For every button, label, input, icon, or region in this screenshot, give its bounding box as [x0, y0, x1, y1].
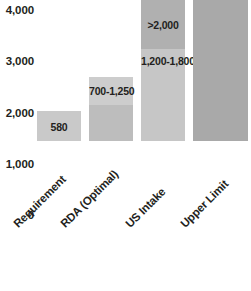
bar-segment [193, 0, 248, 141]
bar-value-label: 580 [37, 122, 81, 133]
bar-value-label: >2,000 [141, 20, 185, 31]
bar-rda-optimal[interactable]: 700-1,250 [89, 0, 133, 141]
bar-upper-limit[interactable]: 3,000-4,000 [193, 0, 248, 141]
bar-us-intake[interactable]: 1,200-1,800>2,000 [141, 0, 185, 141]
x-axis: RequirementRDA (Optimal)US IntakeUpper L… [0, 216, 251, 291]
bar-value-label: 1,200-1,800 [141, 56, 185, 67]
bar-requirement[interactable]: 580 [37, 0, 81, 141]
plot-area: 580700-1,2501,200-1,800>2,0003,000-4,000 [0, 0, 251, 216]
bar-chart: 01,0002,0003,0004,000 580700-1,2501,200-… [0, 0, 251, 291]
bar-segment [89, 105, 133, 141]
bar-value-label: 700-1,250 [89, 86, 133, 97]
